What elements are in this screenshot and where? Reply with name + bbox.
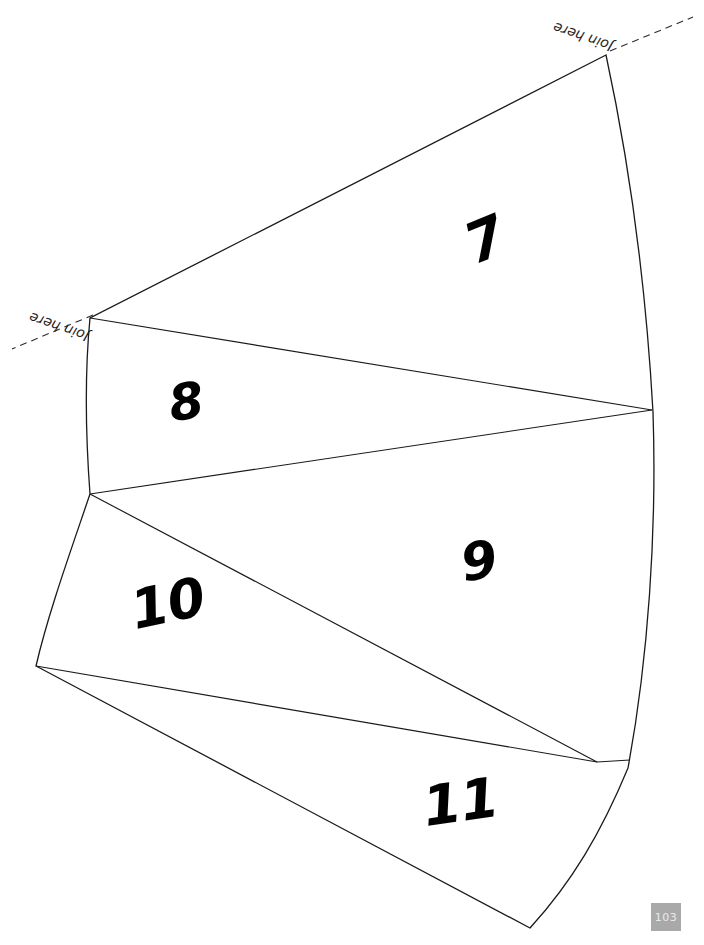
page-sheet: 7 8 9 10 11 Join here Join here 103 xyxy=(0,0,704,945)
net-face-fill xyxy=(36,55,654,928)
face-number-11: 11 xyxy=(420,770,502,835)
polyhedron-net-drawing xyxy=(0,0,704,945)
face-number-8: 8 xyxy=(166,375,207,429)
join-tab-dash-top xyxy=(610,17,693,51)
face-number-10: 10 xyxy=(126,570,210,638)
page-number-badge: 103 xyxy=(651,903,681,931)
